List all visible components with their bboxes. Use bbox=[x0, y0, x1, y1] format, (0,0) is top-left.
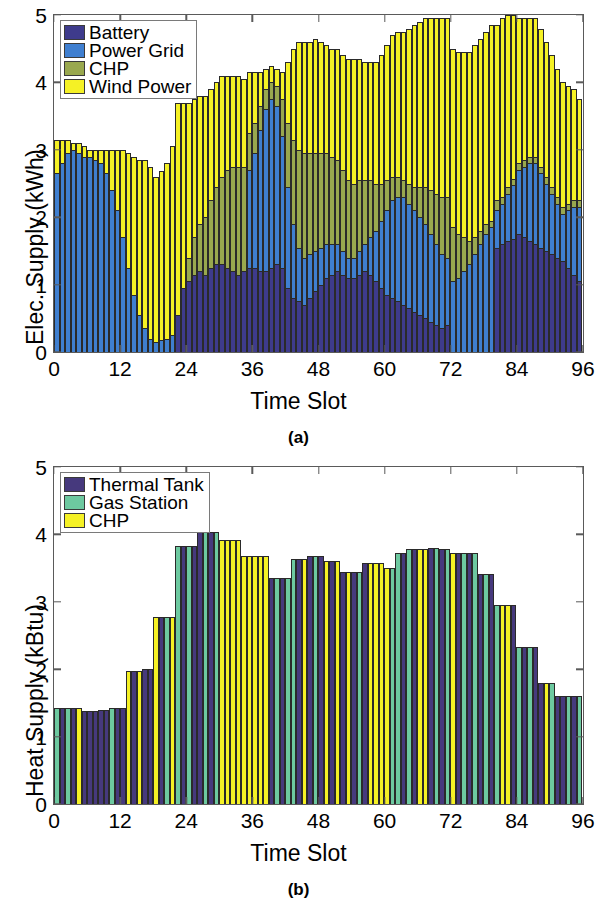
legend-a: BatteryPower GridCHPWind Power bbox=[60, 20, 197, 99]
x-tick-mark bbox=[450, 467, 451, 474]
bar-segment-battery bbox=[577, 281, 583, 352]
y-tick-mark bbox=[576, 216, 583, 217]
plot-area-b: 012345 01224364860728496 Thermal TankGas… bbox=[53, 466, 584, 805]
legend-swatch-icon bbox=[64, 43, 85, 58]
x-tick-mark bbox=[53, 345, 54, 352]
y-tick-label: 5 bbox=[35, 5, 54, 26]
y-tick-mark bbox=[54, 149, 61, 150]
x-tick-mark bbox=[252, 467, 253, 474]
x-tick-label: 96 bbox=[571, 352, 594, 379]
x-tick-label: 0 bbox=[48, 804, 60, 831]
y-tick-mark bbox=[576, 601, 583, 602]
x-tick-mark bbox=[252, 345, 253, 352]
bar-slot bbox=[577, 15, 583, 352]
x-tick-label: 60 bbox=[373, 804, 396, 831]
y-tick-label: 4 bbox=[35, 72, 54, 93]
x-tick-label: 24 bbox=[175, 352, 198, 379]
y-tick-label: 4 bbox=[35, 524, 54, 545]
x-tick-label: 72 bbox=[439, 352, 462, 379]
x-tick-mark bbox=[516, 467, 517, 474]
x-tick-mark bbox=[53, 797, 54, 804]
x-tick-label: 72 bbox=[439, 804, 462, 831]
legend-item-chp: CHP bbox=[64, 60, 191, 77]
y-tick-label: 5 bbox=[35, 457, 54, 478]
x-tick-mark bbox=[582, 345, 583, 352]
y-tick-mark bbox=[54, 736, 61, 737]
legend-item-thermal-tank: Thermal Tank bbox=[64, 476, 204, 493]
y-tick-mark bbox=[576, 284, 583, 285]
x-tick-mark bbox=[252, 15, 253, 22]
x-tick-label: 60 bbox=[373, 352, 396, 379]
y-tick-mark bbox=[54, 534, 61, 535]
x-tick-label: 84 bbox=[505, 352, 528, 379]
x-tick-label: 12 bbox=[108, 352, 131, 379]
legend-label: Wind Power bbox=[89, 77, 191, 96]
x-tick-mark bbox=[516, 797, 517, 804]
panel-a: 012345 01224364860728496 BatteryPower Gr… bbox=[0, 0, 597, 452]
legend-item-power-grid: Power Grid bbox=[64, 42, 191, 59]
legend-swatch-icon bbox=[64, 513, 85, 528]
x-tick-label: 48 bbox=[307, 352, 330, 379]
x-tick-mark bbox=[318, 467, 319, 474]
bar-segment-chp bbox=[577, 200, 583, 207]
legend-item-gas-station: Gas Station bbox=[64, 494, 204, 511]
x-tick-mark bbox=[582, 15, 583, 22]
bar-gas-station bbox=[577, 696, 583, 804]
x-tick-mark bbox=[186, 345, 187, 352]
x-tick-mark bbox=[186, 797, 187, 804]
bar-segment-power-grid bbox=[577, 207, 583, 281]
y-tick-mark bbox=[54, 601, 61, 602]
legend-swatch-icon bbox=[64, 495, 85, 510]
y-tick-mark bbox=[576, 736, 583, 737]
x-tick-mark bbox=[318, 797, 319, 804]
x-tick-mark bbox=[252, 797, 253, 804]
x-tick-label: 84 bbox=[505, 804, 528, 831]
x-tick-mark bbox=[119, 797, 120, 804]
legend-swatch-icon bbox=[64, 25, 85, 40]
x-axis-label-b: Time Slot bbox=[0, 840, 597, 867]
y-tick-mark bbox=[576, 149, 583, 150]
x-tick-mark bbox=[516, 15, 517, 22]
x-tick-label: 0 bbox=[48, 352, 60, 379]
legend-swatch-icon bbox=[64, 61, 85, 76]
y-tick-mark bbox=[54, 216, 61, 217]
x-tick-label: 48 bbox=[307, 804, 330, 831]
y-tick-mark bbox=[54, 668, 61, 669]
figure-container: 012345 01224364860728496 BatteryPower Gr… bbox=[0, 0, 597, 904]
x-tick-label: 12 bbox=[108, 804, 131, 831]
x-tick-mark bbox=[450, 797, 451, 804]
x-tick-mark bbox=[582, 467, 583, 474]
legend-swatch-icon bbox=[64, 79, 85, 94]
legend-item-wind-power: Wind Power bbox=[64, 78, 191, 95]
x-axis-label-a: Time Slot bbox=[0, 388, 597, 415]
x-tick-mark bbox=[318, 15, 319, 22]
legend-label: CHP bbox=[89, 511, 129, 530]
legend-item-chp: CHP bbox=[64, 512, 204, 529]
y-tick-mark bbox=[576, 534, 583, 535]
y-axis-label-a: Elec. Supply (kWh) bbox=[22, 149, 49, 345]
legend-swatch-icon bbox=[64, 477, 85, 492]
legend-b: Thermal TankGas StationCHP bbox=[60, 472, 210, 533]
x-tick-mark bbox=[384, 797, 385, 804]
x-tick-label: 36 bbox=[241, 804, 264, 831]
x-tick-mark bbox=[53, 467, 54, 474]
x-tick-label: 24 bbox=[175, 804, 198, 831]
x-tick-label: 36 bbox=[241, 352, 264, 379]
y-axis-label-b: Heat Supply (kBtu) bbox=[22, 604, 49, 797]
x-tick-mark bbox=[53, 15, 54, 22]
y-tick-mark bbox=[54, 284, 61, 285]
y-tick-mark bbox=[54, 466, 61, 467]
x-tick-mark bbox=[384, 15, 385, 22]
x-tick-mark bbox=[384, 467, 385, 474]
x-tick-mark bbox=[450, 345, 451, 352]
x-tick-mark bbox=[384, 345, 385, 352]
bar-slot bbox=[577, 467, 583, 804]
y-tick-mark bbox=[54, 14, 61, 15]
x-tick-mark bbox=[516, 345, 517, 352]
plot-area-a: 012345 01224364860728496 BatteryPower Gr… bbox=[53, 14, 584, 353]
x-tick-mark bbox=[318, 345, 319, 352]
legend-item-battery: Battery bbox=[64, 24, 191, 41]
y-tick-mark bbox=[576, 82, 583, 83]
panel-b: 012345 01224364860728496 Thermal TankGas… bbox=[0, 452, 597, 904]
y-tick-mark bbox=[576, 668, 583, 669]
